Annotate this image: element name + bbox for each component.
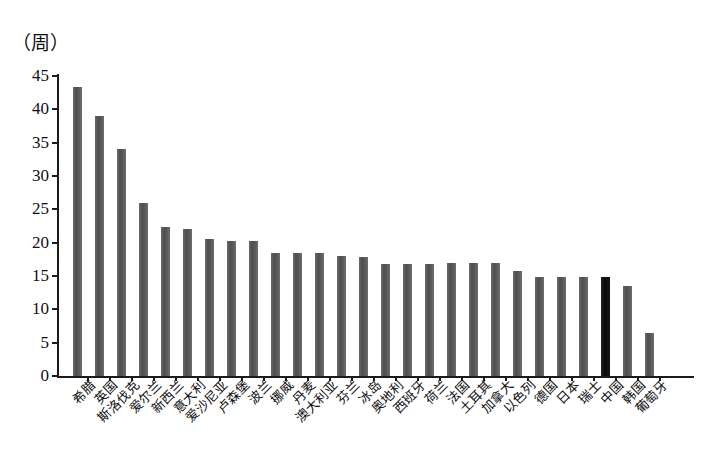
y-axis-tick-label: 45: [3, 67, 49, 84]
bar: [249, 241, 258, 376]
bar: [557, 277, 566, 376]
bar: [337, 256, 346, 376]
bar: [139, 203, 148, 376]
bar: [535, 277, 544, 376]
bar: [513, 271, 522, 376]
y-axis-tick-label: 0: [3, 367, 49, 384]
bar: [359, 257, 368, 376]
y-axis-tick-label: 15: [3, 267, 49, 284]
bar: [117, 149, 126, 376]
x-axis-labels: 希腊英国斯洛伐克爱尔兰新西兰意大利爱沙尼亚卢森堡波兰挪威丹麦澳大利亚芬兰冰岛奥地…: [57, 378, 703, 466]
plot-area: 051015202530354045: [57, 76, 694, 376]
y-axis-unit-label: （周）: [12, 28, 69, 55]
bar: [601, 277, 610, 376]
bar: [183, 229, 192, 376]
bar: [293, 253, 302, 376]
bar: [469, 263, 478, 376]
y-axis-tick-label: 25: [3, 200, 49, 217]
bar: [95, 116, 104, 376]
y-axis-tick-label: 10: [3, 300, 49, 317]
bar-chart: （周） 051015202530354045 希腊英国斯洛伐克爱尔兰新西兰意大利…: [0, 0, 703, 466]
bar: [161, 227, 170, 376]
bar: [403, 264, 412, 376]
bar: [425, 264, 434, 376]
bar: [315, 253, 324, 376]
bar: [271, 253, 280, 376]
bar: [447, 263, 456, 376]
bar: [623, 286, 632, 376]
bar: [227, 241, 236, 376]
bar: [579, 277, 588, 376]
bar: [73, 87, 82, 376]
y-axis-tick-label: 35: [3, 134, 49, 151]
y-axis-tick-label: 30: [3, 167, 49, 184]
bar-series: [57, 76, 694, 376]
bar: [645, 333, 654, 376]
y-axis-tick-label: 5: [3, 334, 49, 351]
y-axis-tick-label: 40: [3, 100, 49, 117]
bar: [381, 264, 390, 376]
y-axis-tick-label: 20: [3, 234, 49, 251]
bar: [205, 239, 214, 376]
bar: [491, 263, 500, 376]
